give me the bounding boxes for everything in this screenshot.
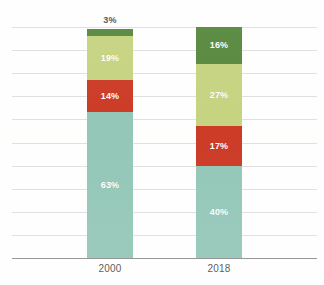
plot-area: 3%19%14%63%16%27%17%40% <box>12 27 317 258</box>
bar-segment-series-4-dark-green[interactable]: 16% <box>196 27 242 64</box>
bar-segment-series-4-dark-green[interactable]: 3% <box>87 29 133 36</box>
bar-2000[interactable]: 3%19%14%63% <box>87 29 133 258</box>
x-axis-category-labels: 20002018 <box>12 263 317 281</box>
segment-value-label: 16% <box>210 40 229 50</box>
segment-value-label: 3% <box>103 15 116 25</box>
x-axis-label-2000: 2000 <box>80 263 140 274</box>
stacked-bar-chart: 3%19%14%63%16%27%17%40% 20002018 <box>0 0 324 285</box>
segment-value-label: 17% <box>210 141 229 151</box>
bar-2018[interactable]: 16%27%17%40% <box>196 27 242 258</box>
segment-value-label: 19% <box>101 53 120 63</box>
x-axis-line <box>12 258 317 259</box>
segment-value-label: 27% <box>210 90 229 100</box>
bar-group: 3%19%14%63%16%27%17%40% <box>12 27 317 258</box>
x-axis-label-2018: 2018 <box>189 263 249 274</box>
bar-segment-series-3-light-green[interactable]: 27% <box>196 64 242 126</box>
segment-value-label: 63% <box>101 180 120 190</box>
bar-segment-series-2-red[interactable]: 14% <box>87 80 133 112</box>
title-remnant <box>0 0 324 7</box>
bar-segment-series-2-red[interactable]: 17% <box>196 126 242 165</box>
bar-segment-series-3-light-green[interactable]: 19% <box>87 36 133 80</box>
segment-value-label: 40% <box>210 207 229 217</box>
segment-value-label: 14% <box>101 91 120 101</box>
bar-segment-series-1-teal[interactable]: 63% <box>87 112 133 258</box>
bar-segment-series-1-teal[interactable]: 40% <box>196 166 242 258</box>
